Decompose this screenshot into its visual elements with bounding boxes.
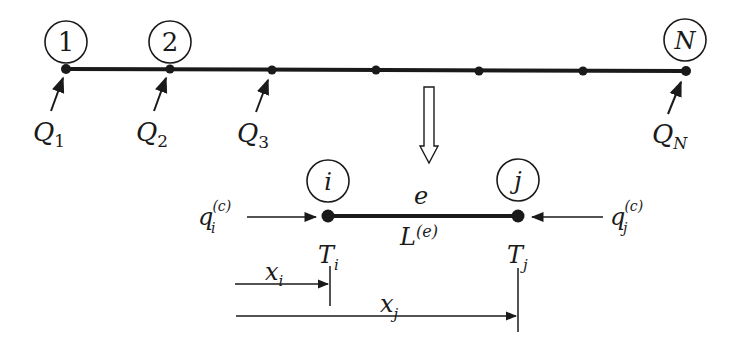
- flux-sub-qi: i: [211, 220, 215, 236]
- node-label-2: 2: [149, 21, 191, 63]
- node-label-i: i: [307, 160, 349, 202]
- node-dot: [268, 66, 277, 75]
- node-label-n: N: [664, 19, 706, 61]
- node-dot: [372, 66, 381, 75]
- svg-text:i: i: [324, 168, 332, 196]
- node-dot: [579, 67, 588, 76]
- node-dot: [681, 66, 691, 76]
- dim-label-xj: xj: [380, 290, 399, 323]
- node-dot: [61, 64, 71, 74]
- flux-label-qn: QN: [652, 119, 688, 153]
- svg-text:1: 1: [58, 27, 75, 57]
- flux-arrow-q1: [51, 78, 63, 111]
- node-label-1: 1: [45, 21, 87, 63]
- fem-diagram: 1 2 N Q1 Q2 Q3 QN i j: [0, 0, 736, 346]
- flux-label-q3: Q3: [237, 118, 269, 152]
- svg-text:j: j: [509, 167, 522, 195]
- node-dot: [166, 65, 175, 74]
- node-label-j: j: [497, 159, 539, 201]
- node-i-dot: [322, 210, 335, 223]
- flux-label-q2: Q2: [136, 117, 168, 151]
- svg-text:2: 2: [162, 27, 179, 57]
- element-length: L(e): [399, 222, 438, 251]
- svg-text:N: N: [674, 27, 697, 55]
- global-mesh: 1 2 N Q1 Q2 Q3 QN: [33, 19, 706, 153]
- flux-arrow-q2: [154, 78, 166, 111]
- temp-label-ti: Ti: [318, 241, 339, 274]
- element-label: e: [414, 182, 428, 210]
- node-dot: [475, 67, 484, 76]
- flux-arrow-q3: [256, 80, 268, 112]
- node-j-dot: [512, 210, 525, 223]
- dim-label-xi: xi: [265, 258, 284, 290]
- element-detail: i j e L(e) q(c) i q(c) j Ti Tj xi xj: [198, 159, 643, 332]
- flux-arrow-qn: [668, 82, 681, 114]
- flux-label-q1: Q1: [33, 117, 65, 151]
- down-arrow-icon: [420, 87, 438, 163]
